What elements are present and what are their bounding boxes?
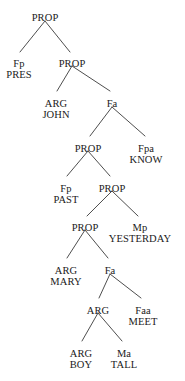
node-category-label: ARG [87, 305, 109, 316]
tree-node-fa: Fa [105, 265, 116, 276]
tree-branch [112, 107, 145, 136]
tree-node-prop: PROP [99, 183, 126, 194]
tree-node-mp: MpYESTERDAY [109, 222, 171, 244]
node-category-label: ARG [70, 348, 92, 359]
tree-branch [72, 66, 110, 91]
tree-branch [67, 230, 85, 258]
node-terminal-word: YESTERDAY [109, 233, 171, 244]
tree-branch [110, 274, 141, 298]
tree-branch [90, 107, 112, 136]
node-terminal-word: KNOW [129, 154, 162, 165]
node-category-label: ARG [50, 265, 81, 276]
tree-node-arg: ARGMARY [50, 265, 81, 287]
node-category-label: Fp [53, 183, 78, 194]
node-category-label: PROP [99, 183, 126, 194]
node-category-label: Faa [129, 305, 158, 316]
tree-node-ma: MaTALL [111, 348, 137, 370]
tree-branch [57, 66, 72, 91]
tree-node-arg: ARGBOY [70, 348, 92, 370]
node-category-label: Fp [6, 58, 32, 69]
tree-branch [45, 21, 70, 52]
node-terminal-word: MARY [50, 276, 81, 287]
tree-branch [98, 313, 122, 341]
tree-node-arg: ARG [87, 305, 109, 316]
node-category-label: Mp [109, 222, 171, 233]
tree-node-fa: Fa [107, 98, 118, 109]
tree-branch [112, 191, 138, 216]
node-terminal-word: BOY [70, 359, 92, 370]
node-terminal-word: PRES [6, 69, 32, 80]
tree-branch [87, 191, 112, 216]
node-category-label: Fpa [129, 143, 162, 154]
tree-node-prop: PROP [59, 58, 86, 69]
tree-branch [67, 151, 88, 176]
tree-node-fpa: FpaKNOW [129, 143, 162, 165]
node-terminal-word: TALL [111, 359, 137, 370]
tree-node-prop: PROP [32, 12, 59, 23]
node-category-label: PROP [59, 58, 86, 69]
node-terminal-word: JOHN [42, 109, 69, 120]
tree-branch [82, 313, 98, 341]
node-category-label: PROP [32, 12, 59, 23]
tree-node-arg: ARGJOHN [42, 98, 69, 120]
tree-node-fp: FpPAST [53, 183, 78, 205]
syntax-tree-figure: PROPFpPRESPROPARGJOHNFaPROPFpaKNOWFpPAST… [0, 0, 185, 381]
node-terminal-word: PAST [53, 194, 78, 205]
tree-branch [85, 230, 108, 258]
tree-node-fp: FpPRES [6, 58, 32, 80]
node-category-label: Ma [111, 348, 137, 359]
node-category-label: Fa [107, 98, 118, 109]
tree-branch [20, 21, 45, 52]
node-terminal-word: MEET [129, 316, 158, 327]
tree-node-prop: PROP [72, 222, 99, 233]
tree-branch [99, 274, 110, 298]
tree-node-prop: PROP [75, 143, 102, 154]
node-category-label: Fa [105, 265, 116, 276]
tree-branch [88, 151, 110, 176]
node-category-label: ARG [42, 98, 69, 109]
node-category-label: PROP [75, 143, 102, 154]
node-category-label: PROP [72, 222, 99, 233]
tree-node-faa: FaaMEET [129, 305, 158, 327]
